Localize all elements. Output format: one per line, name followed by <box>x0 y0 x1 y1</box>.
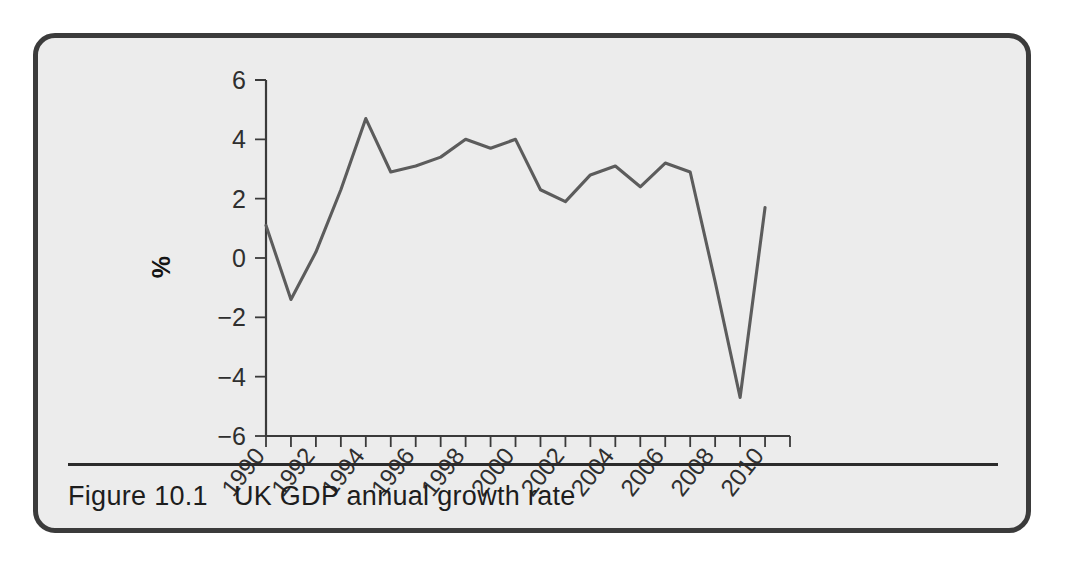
y-tick-label: 0 <box>232 244 246 272</box>
y-axis-title: % <box>147 256 175 278</box>
data-series <box>266 119 765 398</box>
y-tick-label: 6 <box>232 66 246 94</box>
caption-divider <box>68 463 998 466</box>
x-tick-label: 2008 <box>665 442 719 501</box>
line-chart: 6420−2−4−6 19901992199419961998200020022… <box>38 38 1026 528</box>
y-tick-label: 2 <box>232 185 246 213</box>
y-tick-label: −4 <box>217 363 246 391</box>
y-tick-label: 4 <box>232 125 246 153</box>
caption-label: Figure 10.1 <box>68 481 208 512</box>
caption-text: UK GDP annual growth rate <box>234 481 576 512</box>
figure-caption: Figure 10.1 UK GDP annual growth rate <box>68 481 576 512</box>
chart-plot-area: 6420−2−4−6 19901992199419961998200020022… <box>38 38 1026 528</box>
gdp-growth-line <box>266 119 765 398</box>
page-root: 6420−2−4−6 19901992199419961998200020022… <box>0 0 1066 566</box>
y-axis: 6420−2−4−6 <box>217 66 266 450</box>
figure-box: 6420−2−4−6 19901992199419961998200020022… <box>33 33 1031 533</box>
x-tick-label: 2006 <box>615 442 669 501</box>
x-tick-label: 2010 <box>715 442 769 501</box>
y-tick-label: −2 <box>217 303 246 331</box>
y-tick-label: −6 <box>217 422 246 450</box>
